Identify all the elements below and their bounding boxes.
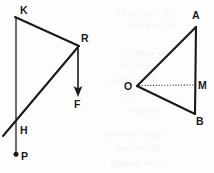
diagram-svg: K R H F P A B O M — [0, 0, 214, 173]
vector-label-F: F — [74, 98, 81, 110]
arrowhead-P-dot — [14, 152, 19, 157]
vertex-label-R: R — [81, 32, 89, 44]
segment-O-to-A — [137, 27, 196, 86]
vertex-label-K: K — [20, 4, 28, 16]
segment-diagonal-H-to-R — [3, 47, 78, 136]
vertex-label-H: H — [20, 124, 28, 136]
right-figure-triangle-OAB: A B O M — [124, 9, 207, 127]
vertex-label-A: A — [192, 9, 200, 21]
vertex-label-O: O — [124, 80, 132, 92]
median-O-to-M-dotted — [139, 85, 194, 86]
vertex-label-B: B — [196, 115, 204, 127]
segment-K-to-R — [15, 17, 79, 46]
left-figure-force-diagram: K R H F P — [3, 4, 89, 162]
vector-label-P: P — [21, 150, 28, 162]
vertex-label-M: M — [198, 79, 207, 91]
segment-O-to-B — [137, 86, 195, 114]
segment-A-to-B — [195, 27, 196, 114]
figure-canvas: the force to be of the given is equal to… — [0, 0, 214, 173]
